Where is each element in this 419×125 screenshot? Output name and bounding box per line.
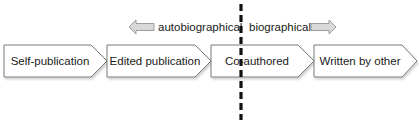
stage-label: Co-authored — [225, 55, 289, 67]
stage-co-authored: Co-authored — [211, 45, 314, 77]
autobiographical-indicator: autobiographical — [129, 20, 242, 34]
autobiographical-label: autobiographical — [158, 21, 242, 33]
stage-label: Self-publication — [11, 55, 90, 67]
diagram-canvas: Self-publication Edited publication Co-a… — [0, 0, 419, 125]
stage-self-publication: Self-publication — [4, 45, 107, 77]
stage-label: Edited publication — [110, 55, 201, 67]
biographical-indicator: biographical — [249, 20, 336, 34]
stage-written-by-other: Written by other — [314, 45, 417, 77]
stage-edited-publication: Edited publication — [107, 45, 211, 77]
biographical-label: biographical — [249, 21, 311, 33]
stage-label: Written by other — [320, 55, 401, 67]
left-arrow-icon — [129, 20, 154, 34]
right-arrow-icon — [311, 20, 336, 34]
